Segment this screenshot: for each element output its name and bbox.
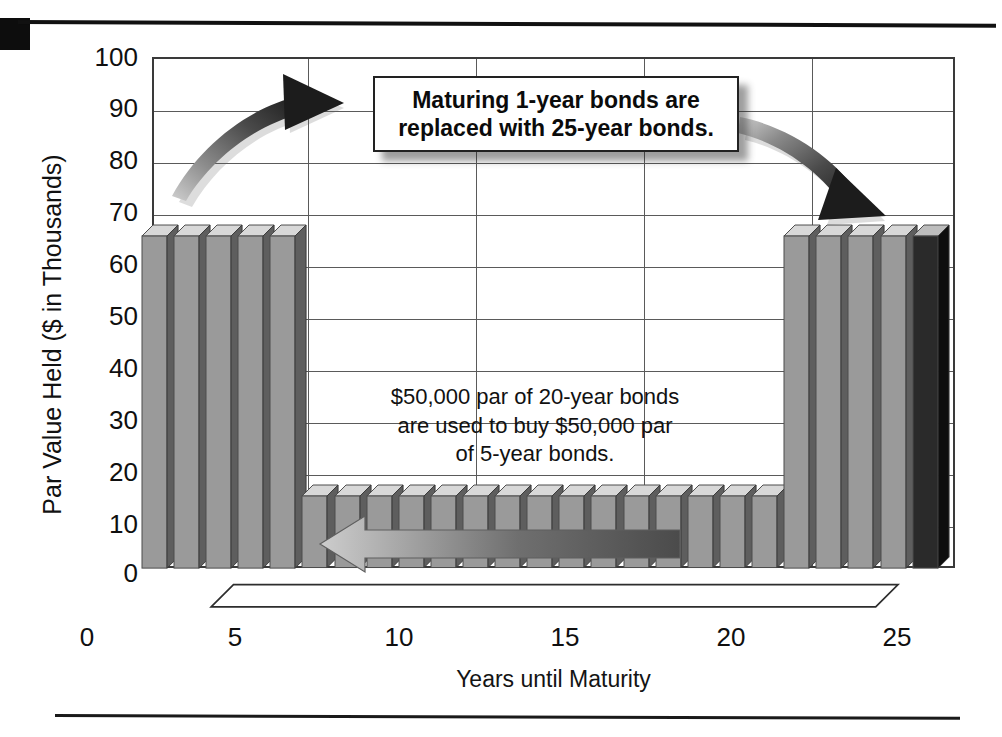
y-tick-0: 0 — [58, 560, 138, 586]
gridline-y-60 — [154, 267, 953, 268]
chart-page: Par Value Held ($ in Thousands) 100 90 8… — [0, 0, 1002, 737]
x-tick-20: 20 — [696, 622, 766, 653]
x-tick-25: 25 — [862, 622, 932, 653]
chart-floor-3d — [152, 568, 982, 616]
x-axis-title: Years until Maturity — [152, 666, 955, 693]
y-tick-50: 50 — [58, 303, 138, 329]
y-tick-60: 60 — [58, 251, 138, 277]
gridline-y-40 — [154, 371, 953, 372]
gridline-y-20 — [154, 475, 953, 476]
y-tick-10: 10 — [58, 511, 138, 537]
y-tick-80: 80 — [58, 147, 138, 173]
gridline-x-5 — [308, 59, 309, 566]
callout-text: Maturing 1-year bonds are replaced with … — [388, 86, 724, 142]
y-tick-20: 20 — [58, 459, 138, 485]
x-tick-5: 5 — [200, 622, 270, 653]
gridline-x-20 — [812, 59, 813, 566]
y-tick-90: 90 — [58, 95, 138, 121]
x-tick-10: 10 — [364, 622, 434, 653]
gridline-y-50 — [154, 319, 953, 320]
gridline-y-80 — [154, 163, 953, 164]
x-tick-0: 0 — [52, 622, 122, 653]
gridline-y-10 — [154, 527, 953, 528]
middle-annotation: $50,000 par of 20-year bonds are used to… — [370, 383, 700, 469]
middle-annotation-line-1: $50,000 par of 20-year bonds — [370, 383, 700, 412]
callout-line-1: Maturing 1-year bonds are — [398, 86, 714, 114]
gridline-y-70 — [154, 215, 953, 216]
middle-annotation-line-3: of 5-year bonds. — [370, 440, 700, 469]
bottom-page-rule — [55, 714, 960, 720]
callout-box: Maturing 1-year bonds are replaced with … — [373, 76, 739, 152]
y-tick-70: 70 — [58, 199, 138, 225]
x-tick-15: 15 — [530, 622, 600, 653]
top-page-rule — [18, 20, 996, 28]
middle-annotation-line-2: are used to buy $50,000 par — [370, 412, 700, 441]
y-tick-30: 30 — [58, 407, 138, 433]
callout-line-2: replaced with 25-year bonds. — [398, 114, 714, 142]
y-tick-100: 100 — [58, 44, 138, 70]
y-tick-40: 40 — [58, 355, 138, 381]
